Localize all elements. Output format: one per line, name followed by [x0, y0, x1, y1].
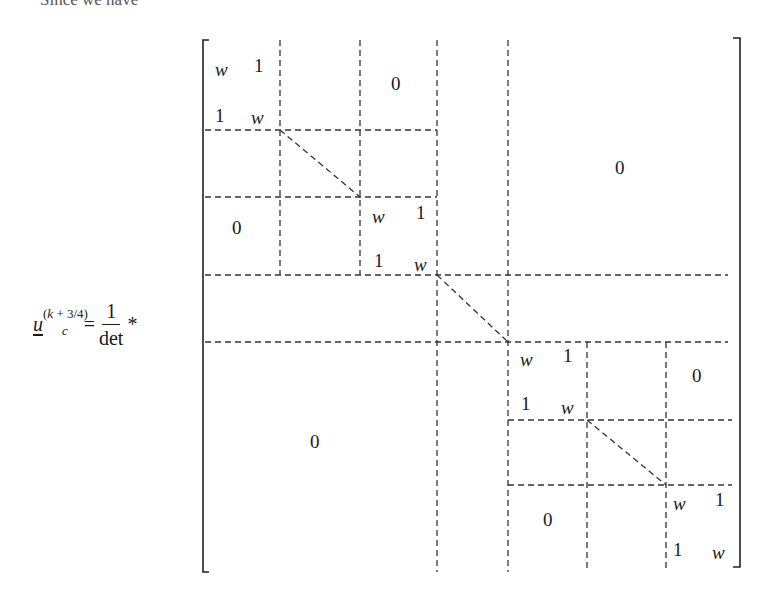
entry-one: 1	[563, 346, 573, 365]
entry-zero: 0	[615, 158, 625, 177]
entry-w: w	[215, 60, 228, 79]
entry-zero: 0	[310, 432, 320, 451]
entry-w: w	[561, 398, 574, 417]
entry-zero: 0	[391, 74, 401, 93]
left-bracket	[203, 40, 209, 572]
entry-zero: 0	[232, 218, 242, 237]
entry-one: 1	[254, 56, 264, 75]
entry-one: 1	[521, 394, 531, 413]
entry-w: w	[712, 543, 725, 562]
matrix-lines	[0, 0, 774, 602]
entry-w: w	[251, 108, 264, 127]
entry-w: w	[414, 255, 427, 274]
entry-zero: 0	[543, 510, 553, 529]
right-bracket	[733, 38, 740, 567]
entry-zero: 0	[692, 366, 702, 385]
entry-w: w	[520, 350, 533, 369]
entry-one: 1	[416, 203, 426, 222]
brackets	[203, 38, 740, 572]
entry-one: 1	[215, 106, 225, 125]
entry-w: w	[372, 207, 385, 226]
dashed-grid	[205, 40, 732, 572]
entry-one: 1	[673, 540, 683, 559]
entry-one: 1	[715, 490, 725, 509]
entry-one: 1	[374, 251, 384, 270]
entry-w: w	[673, 494, 686, 513]
